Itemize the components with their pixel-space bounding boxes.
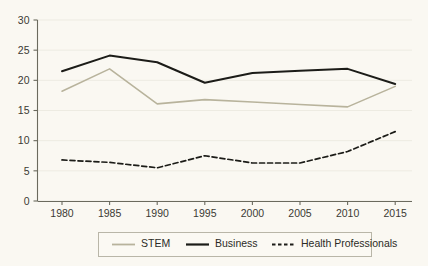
chart-legend: STEMBusinessHealth Professionals [99,233,398,257]
x-tick-label: 1995 [193,207,217,219]
y-tick-label: 10 [18,134,30,146]
x-tick-label: 2010 [336,207,360,219]
chart-background [0,0,428,266]
x-tick-label: 1980 [50,207,74,219]
y-tick-label: 0 [24,195,30,207]
y-tick-label: 20 [18,74,30,86]
line-chart: 051015202530 198019851990199520002005201… [0,0,428,266]
x-tick-label: 1990 [146,207,170,219]
legend-label-stem: STEM [141,237,170,249]
x-tick-label: 1985 [98,207,122,219]
legend-label-health-professionals: Health Professionals [301,237,397,249]
y-tick-label: 15 [18,104,30,116]
chart-canvas: 051015202530 198019851990199520002005201… [0,0,428,266]
y-tick-label: 25 [18,44,30,56]
legend-label-business: Business [215,237,258,249]
x-tick-label: 2015 [384,207,408,219]
y-tick-label: 5 [24,165,30,177]
y-tick-label: 30 [18,14,30,26]
x-tick-label: 2000 [241,207,265,219]
x-tick-label: 2005 [288,207,312,219]
